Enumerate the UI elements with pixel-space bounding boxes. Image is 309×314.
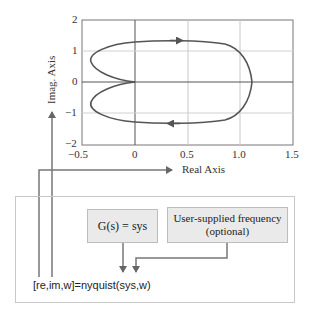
y-tick-1: 1: [72, 44, 78, 56]
y-tick-neg1: −1: [65, 106, 77, 118]
nyquist-command: [re,im,w]=nyquist(sys,w): [33, 279, 151, 291]
user-frequency-box: User-supplied frequency (optional): [167, 207, 288, 243]
x-tick-neg0-5: −0.5: [68, 148, 88, 160]
y-axis-label: Imag. Axis: [45, 56, 57, 104]
gs-sys-label: G(s) = sys: [98, 219, 147, 234]
plot-area: [82, 20, 293, 145]
y-tick-0: 0: [72, 75, 78, 87]
user-frequency-label: User-supplied frequency: [173, 212, 281, 225]
gs-sys-box: G(s) = sys: [87, 209, 158, 243]
nyquist-figure: 2 1 0 −1 −2 −0.5 0 0.5 1.0 1.5 Real Axis…: [0, 0, 309, 314]
x-tick-1-5: 1.5: [285, 148, 299, 160]
x-tick-1-0: 1.0: [232, 148, 246, 160]
y-tick-2: 2: [72, 13, 78, 25]
x-tick-0: 0: [132, 148, 138, 160]
x-tick-0-5: 0.5: [180, 148, 194, 160]
optional-label: (optional): [206, 225, 249, 238]
x-axis-label: Real Axis: [182, 163, 225, 175]
